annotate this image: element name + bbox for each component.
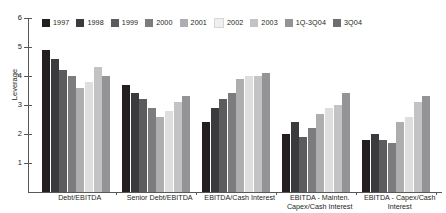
bar [316, 114, 324, 192]
y-axis-tick [24, 163, 28, 164]
bar [334, 105, 342, 192]
category-label-line: Interest [345, 202, 446, 211]
y-axis-tick [24, 105, 28, 106]
y-axis-tick [24, 134, 28, 135]
bar [102, 76, 110, 192]
bar [94, 67, 102, 192]
bar [245, 76, 253, 192]
bar [165, 111, 173, 192]
bar [59, 70, 67, 192]
bar [131, 93, 139, 192]
bar [422, 96, 430, 192]
leverage-bar-chart: 19971998199920002001200220031Q-3Q043Q04 … [0, 0, 446, 213]
bar-group [362, 18, 439, 192]
bar-group [42, 18, 119, 192]
bar [342, 93, 350, 192]
bar [414, 102, 422, 192]
y-axis-tick [24, 76, 28, 77]
bar [148, 108, 156, 192]
category-labels: Debt/EBITDASenior Debt/EBITDAEBITDA/Cash… [28, 193, 442, 213]
bar [202, 122, 210, 192]
plot-area: 654321 Leverage [28, 18, 442, 192]
bar [291, 122, 299, 192]
bar [68, 76, 76, 192]
category-label-line: EBITDA - Capex/Cash [345, 193, 446, 202]
bar [262, 73, 270, 192]
bar [254, 76, 262, 192]
bar [85, 82, 93, 192]
category-label: EBITDA - Capex/CashInterest [345, 193, 446, 211]
y-axis-tick-label: 1 [8, 159, 22, 167]
bar-groups [29, 18, 442, 192]
bar-group [202, 18, 279, 192]
bar-group [122, 18, 199, 192]
y-axis-tick-label: 5 [8, 43, 22, 51]
y-axis-tick-label: 6 [8, 14, 22, 22]
bar [362, 140, 370, 192]
bar [299, 137, 307, 192]
bar [42, 50, 50, 192]
bar [282, 134, 290, 192]
bar [325, 108, 333, 192]
bar [182, 96, 190, 192]
bar [405, 117, 413, 192]
bar [139, 99, 147, 192]
y-axis-tick-label: 2 [8, 130, 22, 138]
bar [236, 79, 244, 192]
bar [211, 108, 219, 192]
bar [371, 134, 379, 192]
bar [122, 85, 130, 192]
bar-group [282, 18, 359, 192]
bar [219, 99, 227, 192]
y-axis-title: Leverage [10, 55, 19, 115]
bar [388, 143, 396, 192]
bar [174, 102, 182, 192]
bar [156, 117, 164, 192]
bar [228, 93, 236, 192]
y-axis-tick [24, 47, 28, 48]
bar [76, 88, 84, 192]
y-axis-tick [24, 18, 28, 19]
bar [51, 59, 59, 192]
bar [396, 122, 404, 192]
bar [308, 128, 316, 192]
bar [379, 140, 387, 192]
